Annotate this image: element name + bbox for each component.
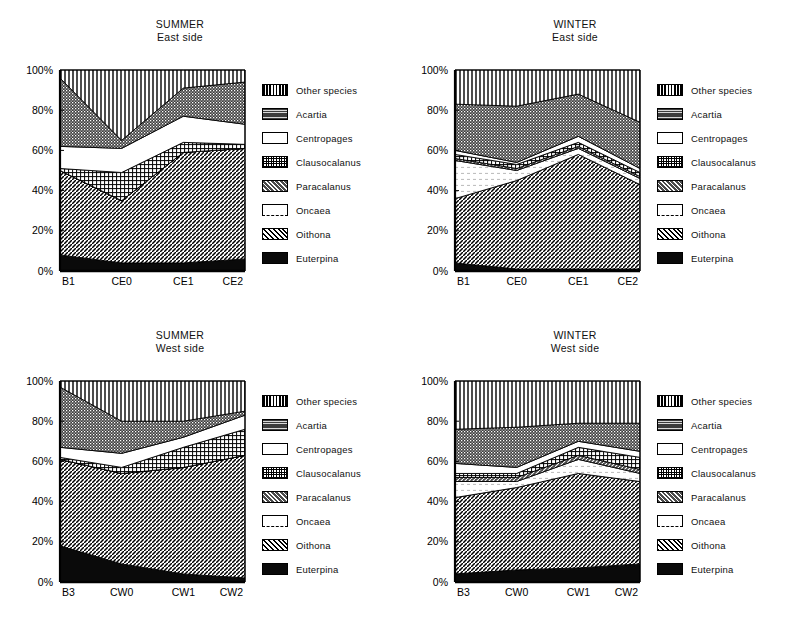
legend-swatch-diagonal-hatch-dark-icon: [657, 180, 683, 192]
legend-item-centropages: Centropages: [657, 126, 787, 150]
legend-swatch-fine-grid-icon: [657, 467, 683, 479]
x-tick-label: CE1: [173, 275, 194, 287]
legend: Other speciesAcartiaCentropagesClausocal…: [657, 78, 787, 270]
area-other-species: [455, 381, 640, 429]
y-tick-label: 80%: [32, 415, 53, 427]
legend-item-paracalanus: Paracalanus: [657, 485, 787, 509]
panel-summer-west: SUMMER West side 0%20%40%60%80%100%B3CW0…: [0, 311, 395, 621]
legend-swatch-diagonal-hatch-light-icon: [262, 539, 288, 551]
legend-swatch-vertical-lines-icon: [657, 84, 683, 96]
legend-label: Oithona: [296, 540, 331, 551]
legend: Other speciesAcartiaCentropagesClausocal…: [657, 389, 787, 581]
y-tick-label: 40%: [32, 184, 53, 196]
legend-label: Oncaea: [691, 516, 725, 527]
legend-swatch-vertical-lines-icon: [262, 84, 288, 96]
legend-item-paracalanus: Paracalanus: [262, 174, 392, 198]
legend-item-acartia: Acartia: [657, 413, 787, 437]
x-tick-label: CW1: [567, 586, 590, 598]
legend-label: Other species: [296, 396, 357, 407]
legend-swatch-diagonal-hatch-dark-icon: [657, 491, 683, 503]
figure-stacked-area-charts: SUMMER East side 0%20%40%60%80%100%B1CE0…: [0, 0, 790, 621]
legend-swatch-solid-white-icon: [657, 132, 683, 144]
legend-item-oithona: Oithona: [657, 222, 787, 246]
legend-swatch-fine-grid-icon: [262, 156, 288, 168]
legend-item-acartia: Acartia: [657, 102, 787, 126]
legend-label: Centropages: [691, 133, 748, 144]
legend-label: Acartia: [296, 109, 327, 120]
legend-label: Clausocalanus: [691, 157, 756, 168]
legend-item-euterpina: Euterpina: [657, 246, 787, 270]
y-tick-label: 40%: [32, 495, 53, 507]
legend-label: Oncaea: [296, 516, 330, 527]
legend-item-other-species: Other species: [262, 389, 392, 413]
legend-swatch-solid-white-icon: [262, 443, 288, 455]
legend-item-euterpina: Euterpina: [262, 246, 392, 270]
y-tick-label: 100%: [421, 64, 448, 76]
y-tick-label: 100%: [26, 64, 53, 76]
legend-label: Centropages: [691, 444, 748, 455]
legend-swatch-solid-white-icon: [657, 443, 683, 455]
legend-item-oithona: Oithona: [262, 533, 392, 557]
y-tick-label: 0%: [38, 576, 53, 588]
y-tick-label: 80%: [427, 415, 448, 427]
legend-label: Oithona: [691, 229, 726, 240]
legend-swatch-diagonal-hatch-light-icon: [657, 228, 683, 240]
legend-label: Clausocalanus: [296, 157, 361, 168]
y-tick-label: 40%: [427, 184, 448, 196]
legend-swatch-white-dashed-icon: [262, 204, 288, 216]
legend-label: Clausocalanus: [296, 468, 361, 479]
stacked-areas: [60, 381, 245, 582]
legend-swatch-diagonal-hatch-dark-icon: [262, 180, 288, 192]
x-tick-label: CE2: [618, 275, 639, 287]
y-tick-label: 80%: [427, 104, 448, 116]
y-tick-label: 0%: [433, 576, 448, 588]
legend-swatch-fine-grid-icon: [262, 467, 288, 479]
legend-label: Other species: [691, 396, 752, 407]
legend-label: Paracalanus: [296, 181, 351, 192]
legend-item-clausocalanus: Clausocalanus: [262, 150, 392, 174]
y-tick-label: 100%: [421, 375, 448, 387]
legend-label: Euterpina: [296, 253, 338, 264]
legend-swatch-diagonal-hatch-light-icon: [657, 539, 683, 551]
legend-label: Acartia: [691, 420, 722, 431]
legend-label: Paracalanus: [296, 492, 351, 503]
x-tick-label: CW1: [172, 586, 195, 598]
legend-swatch-solid-black-icon: [262, 563, 288, 575]
x-tick-label: CW2: [220, 586, 243, 598]
legend-label: Paracalanus: [691, 181, 746, 192]
y-tick-label: 60%: [32, 455, 53, 467]
x-tick-label: B3: [62, 586, 75, 598]
legend-swatch-dense-dots-dark-icon: [657, 419, 683, 431]
stacked-areas: [60, 70, 245, 271]
legend-item-centropages: Centropages: [657, 437, 787, 461]
legend-item-other-species: Other species: [262, 78, 392, 102]
legend-item-euterpina: Euterpina: [657, 557, 787, 581]
y-tick-label: 20%: [427, 224, 448, 236]
legend-swatch-white-dashed-icon: [262, 515, 288, 527]
x-tick-label: B1: [62, 275, 75, 287]
legend-swatch-white-dashed-icon: [657, 204, 683, 216]
y-tick-label: 60%: [427, 144, 448, 156]
x-tick-label: CE0: [111, 275, 132, 287]
legend-swatch-solid-black-icon: [657, 252, 683, 264]
legend-swatch-diagonal-hatch-light-icon: [262, 228, 288, 240]
legend-item-paracalanus: Paracalanus: [657, 174, 787, 198]
legend-item-other-species: Other species: [657, 78, 787, 102]
x-tick-label: B1: [457, 275, 470, 287]
legend-swatch-vertical-lines-icon: [657, 395, 683, 407]
legend-item-paracalanus: Paracalanus: [262, 485, 392, 509]
stacked-areas: [455, 70, 640, 271]
legend: Other speciesAcartiaCentropagesClausocal…: [262, 389, 392, 581]
legend-item-centropages: Centropages: [262, 437, 392, 461]
legend-item-oncaea: Oncaea: [262, 509, 392, 533]
legend-swatch-solid-black-icon: [262, 252, 288, 264]
legend-item-oithona: Oithona: [657, 533, 787, 557]
legend-swatch-fine-grid-icon: [657, 156, 683, 168]
legend-swatch-vertical-lines-icon: [262, 395, 288, 407]
y-tick-label: 20%: [32, 224, 53, 236]
y-tick-label: 20%: [32, 535, 53, 547]
y-tick-label: 60%: [32, 144, 53, 156]
x-tick-label: B3: [457, 586, 470, 598]
legend-label: Paracalanus: [691, 492, 746, 503]
legend: Other speciesAcartiaCentropagesClausocal…: [262, 78, 392, 270]
